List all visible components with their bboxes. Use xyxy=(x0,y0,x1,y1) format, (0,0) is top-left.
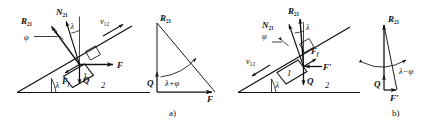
phi-label-b: φ xyxy=(262,31,267,41)
incline-line-b xyxy=(238,27,350,93)
triangle-b-label-Q: Q xyxy=(374,79,381,89)
incline-angle-label-b: λ xyxy=(275,80,280,90)
triangle-a-label-Q: Q xyxy=(147,78,154,88)
vector-N21-label-a: N21 xyxy=(55,7,68,18)
phi-arc-b xyxy=(282,41,289,46)
caption-a: a) xyxy=(169,108,176,118)
triangle-a-label-F: F xyxy=(206,94,213,104)
vector-R21-label-a: R21 xyxy=(20,16,33,27)
triangle-b-side-R21 xyxy=(384,25,397,90)
triangle-b-angle-label: λ−φ xyxy=(398,66,413,76)
vector-Q-label-b: Q xyxy=(307,76,314,86)
vector-F-label-a: F xyxy=(116,60,123,70)
surface-label-a: 2 xyxy=(101,80,106,90)
vector-Ff-label-b: Ff xyxy=(310,46,320,57)
vector-v12-label-a: v12 xyxy=(100,16,109,27)
panel-a: λ 2 1 N21 R21 λ φ F Ff xyxy=(17,7,215,119)
triangle-b-label-Fprime: F′ xyxy=(389,93,399,103)
vector-R21-label-b: R21 xyxy=(287,6,300,17)
vector-Q-label-a: Q xyxy=(83,75,90,85)
panel-b: λ 2 1 N21 R21 λ φ Ff F xyxy=(238,6,413,118)
lambda-label-a: λ xyxy=(70,22,75,31)
incline-line-a xyxy=(17,26,132,93)
caption-b: b) xyxy=(392,108,400,118)
incline-angle-label-a: λ xyxy=(55,80,60,90)
friction-inclined-plane-figure: λ 2 1 N21 R21 λ φ F Ff xyxy=(0,0,440,122)
triangle-a-angle-label: λ+φ xyxy=(164,78,179,88)
vector-Ff-label-a: Ff xyxy=(61,76,71,87)
vector-Ff-b xyxy=(304,59,317,67)
triangle-a-angle-arc xyxy=(161,58,197,77)
surface-label-b: 2 xyxy=(325,80,330,90)
triangle-a-label-R21: R21 xyxy=(159,13,172,24)
vector-Fprime-label-b: F′ xyxy=(322,62,332,72)
lambda-arc-b xyxy=(295,31,304,33)
block-label-b: 1 xyxy=(287,68,291,78)
vector-v12-label-b: v12 xyxy=(246,56,255,67)
triangle-b-label-R21: R21 xyxy=(387,14,400,25)
lambda-label-b: λ xyxy=(305,23,310,32)
phi-label-a: φ xyxy=(24,32,29,42)
